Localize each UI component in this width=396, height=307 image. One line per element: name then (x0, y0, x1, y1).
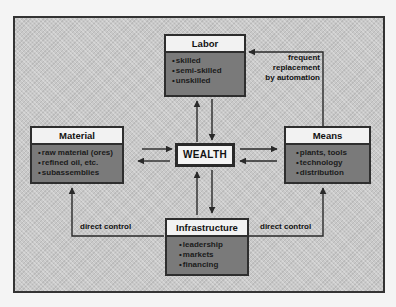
material-item: subassemblies (38, 168, 122, 178)
label-line: frequent (262, 53, 320, 63)
material-node: Material raw material (ores) refined oil… (30, 126, 124, 184)
infrastructure-node: Infrastructure leadership markets financ… (165, 218, 249, 276)
infra-to-means-label: direct control (260, 222, 311, 232)
means-to-labor-label: frequent replacement by automation (262, 53, 320, 83)
infrastructure-item: markets (179, 250, 247, 260)
means-node: Means plants, tools technology distribut… (284, 126, 371, 184)
means-items: plants, tools technology distribution (286, 145, 369, 178)
material-item: refined oil, etc. (38, 158, 122, 168)
labor-item: semi-skilled (172, 66, 244, 76)
labor-item: skilled (172, 56, 244, 66)
labor-item: unskilled (172, 76, 244, 86)
labor-items: skilled semi-skilled unskilled (166, 53, 244, 86)
infrastructure-item: leadership (179, 240, 247, 250)
material-title: Material (32, 128, 122, 145)
infrastructure-items: leadership markets financing (167, 237, 247, 270)
infra-to-material-label: direct control (80, 222, 131, 232)
infrastructure-item: financing (179, 260, 247, 270)
labor-title: Labor (166, 36, 244, 53)
wealth-node: WEALTH (175, 143, 235, 167)
infrastructure-title: Infrastructure (167, 220, 247, 237)
material-items: raw material (ores) refined oil, etc. su… (32, 145, 122, 178)
means-item: distribution (296, 168, 369, 178)
means-item: technology (296, 158, 369, 168)
material-item: raw material (ores) (38, 148, 122, 158)
means-item: plants, tools (296, 148, 369, 158)
label-line: replacement (262, 63, 320, 73)
means-title: Means (286, 128, 369, 145)
label-line: by automation (262, 73, 320, 83)
labor-node: Labor skilled semi-skilled unskilled (164, 34, 246, 97)
